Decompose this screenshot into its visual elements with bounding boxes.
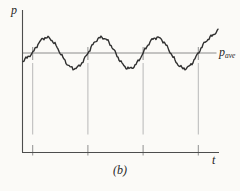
cycle-guide-lines: [33, 47, 199, 156]
average-pressure-label: pave: [219, 46, 235, 60]
pressure-waveform-figure: p t pave (b): [0, 0, 240, 191]
average-pressure-label-subscript: ave: [225, 51, 235, 60]
pressure-signal-curve: [23, 29, 218, 70]
y-axis-label: p: [11, 4, 17, 16]
figure-caption: (b): [0, 164, 240, 176]
